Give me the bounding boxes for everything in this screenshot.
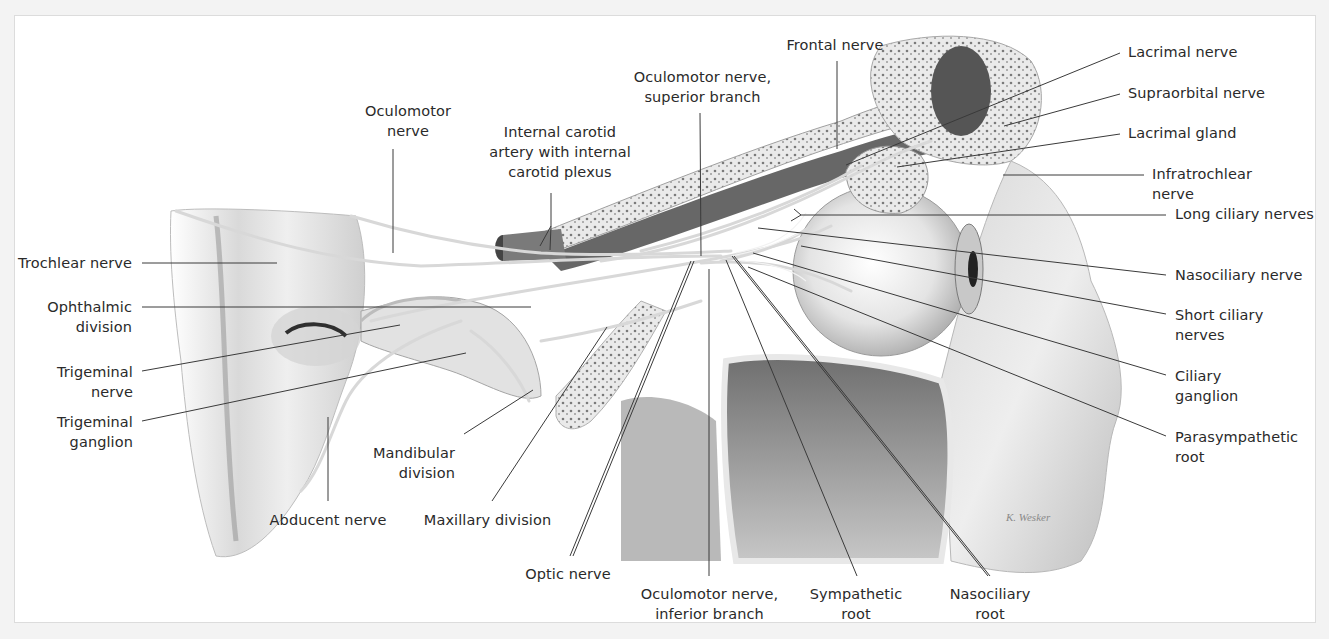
brainstem-illustration — [170, 209, 364, 557]
figure-canvas: K. Wesker Oculomotor nerve Internal caro… — [14, 15, 1316, 623]
label-ophthalmic-division: Ophthalmic division — [15, 297, 132, 337]
label-optic-nerve: Optic nerve — [513, 564, 623, 584]
label-trigeminal-ganglion: Trigeminal ganglion — [15, 412, 133, 452]
label-sympathetic-root: Sympathetic root — [801, 584, 911, 624]
label-trochlear-nerve: Trochlear nerve — [15, 253, 132, 273]
label-long-ciliary-nerves: Long ciliary nerves — [1175, 204, 1314, 224]
label-mandibular-division: Mandibular division — [355, 443, 455, 483]
label-oculomotor-nerve: Oculomotor nerve — [338, 101, 478, 141]
label-trigeminal-nerve: Trigeminal nerve — [15, 362, 133, 402]
label-infratrochlear-nerve: Infratrochlear nerve — [1152, 164, 1252, 204]
label-frontal-nerve: Frontal nerve — [775, 35, 895, 55]
label-oculomotor-inferior: Oculomotor nerve, inferior branch — [627, 584, 792, 624]
trigeminal-ganglion-illustration — [361, 297, 541, 398]
label-internal-carotid: Internal carotid artery with internal ca… — [475, 122, 645, 182]
label-lacrimal-gland: Lacrimal gland — [1128, 123, 1237, 143]
label-maxillary-division: Maxillary division — [415, 510, 560, 530]
label-nasociliary-nerve: Nasociliary nerve — [1175, 265, 1303, 285]
artist-signature: K. Wesker — [1005, 511, 1051, 523]
label-short-ciliary-nerves: Short ciliary nerves — [1175, 305, 1263, 345]
label-supraorbital-nerve: Supraorbital nerve — [1128, 83, 1265, 103]
maxillary-sinus-illustration — [621, 357, 950, 561]
label-lacrimal-nerve: Lacrimal nerve — [1128, 42, 1238, 62]
label-abducent-nerve: Abducent nerve — [258, 510, 398, 530]
orbit-nerve-illustration: K. Wesker — [15, 16, 1317, 624]
internal-carotid-illustration — [495, 229, 566, 261]
label-oculomotor-superior: Oculomotor nerve, superior branch — [620, 67, 785, 107]
label-ciliary-ganglion: Ciliary ganglion — [1175, 366, 1238, 406]
label-nasociliary-root: Nasociliary root — [935, 584, 1045, 624]
label-parasympathetic-root: Parasympathetic root — [1175, 427, 1298, 467]
